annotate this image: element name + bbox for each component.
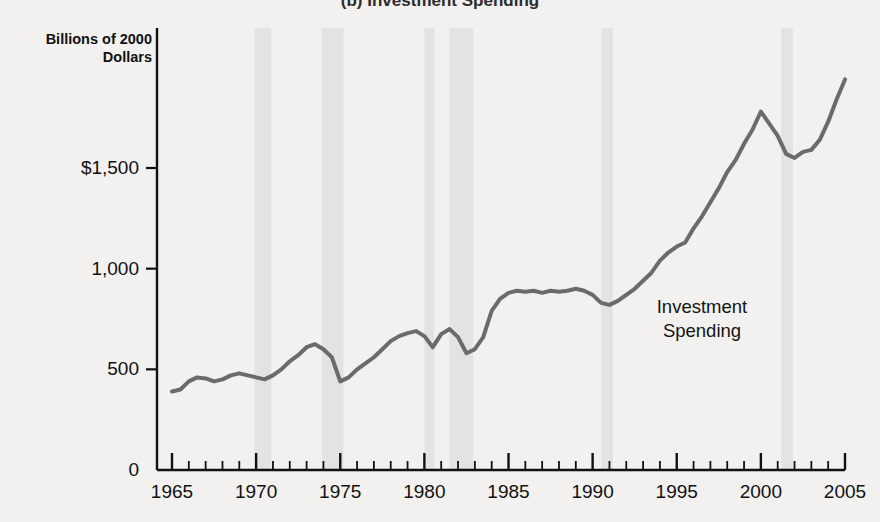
x-axis-tick-label-1970: 1970 (235, 481, 277, 503)
x-axis-tick-label-1990: 1990 (571, 481, 613, 503)
recession-band-1 (322, 28, 344, 470)
y-axis-tick-label-1000: 1,000 (39, 258, 139, 280)
recession-band-2 (424, 28, 434, 470)
investment-spending-figure: (b) Investment Spending Billions of 2000… (0, 0, 880, 522)
x-axis-tick-label-1980: 1980 (403, 481, 445, 503)
recession-band-3 (450, 28, 474, 470)
series-annotation-investment-spending: Investment Spending (630, 295, 774, 344)
y-axis-tick-label-1500: $1,500 (39, 157, 139, 179)
x-axis-tick-label-1975: 1975 (319, 481, 361, 503)
recession-band-4 (601, 28, 613, 470)
x-axis-tick-label-2005: 2005 (824, 481, 866, 503)
x-axis-tick-label-1965: 1965 (151, 481, 193, 503)
x-axis-tick-label-1985: 1985 (487, 481, 529, 503)
x-axis-tick-label-1995: 1995 (656, 481, 698, 503)
data-line-investment-spending (172, 79, 845, 391)
recession-band-0 (254, 28, 271, 470)
y-axis-tick-label-0: 0 (39, 459, 139, 481)
x-axis-tick-label-2000: 2000 (740, 481, 782, 503)
y-axis-tick-label-500: 500 (39, 358, 139, 380)
recession-band-5 (781, 28, 793, 470)
